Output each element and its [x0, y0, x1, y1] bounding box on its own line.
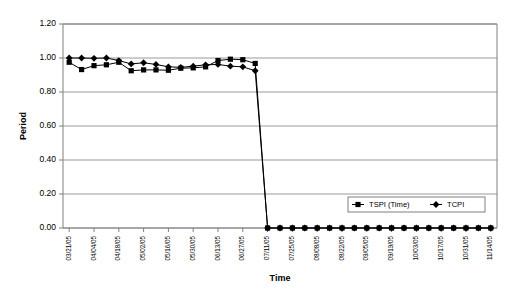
data-point: [91, 63, 96, 68]
x-tick-label: 08/22/05: [338, 236, 345, 261]
chart-container: 0.000.200.400.600.801.001.20 03/21/0504/…: [0, 0, 521, 303]
y-tick-label: 0.60: [39, 120, 56, 130]
x-tick-label: 10/31/05: [462, 236, 469, 261]
data-point: [128, 61, 135, 68]
x-tick-label: 05/30/05: [189, 236, 196, 261]
x-tick-label: 04/18/05: [114, 236, 121, 261]
x-tick-label: 05/02/05: [139, 236, 146, 261]
legend-label: TCPI: [447, 200, 464, 209]
x-tick-label: 06/13/05: [214, 236, 221, 261]
x-tick-label: 11/14/05: [486, 236, 493, 261]
y-tick-label: 0.40: [39, 154, 56, 164]
x-axis-title: Time: [270, 273, 291, 283]
data-point: [228, 57, 233, 62]
y-tick-label: 0.00: [39, 222, 56, 232]
y-axis-title: Period: [18, 112, 28, 140]
x-tick-label: 05/16/05: [164, 236, 171, 261]
legend[interactable]: TSPI (Time)TCPI: [348, 197, 485, 212]
data-point: [240, 57, 245, 62]
x-tick-label: 09/05/05: [362, 236, 369, 261]
x-tick-label: 06/27/05: [238, 236, 245, 261]
data-point: [239, 63, 246, 70]
data-point: [227, 63, 234, 70]
y-tick-label: 0.80: [39, 86, 56, 96]
y-axis-tick-labels: 0.000.200.400.600.801.001.20: [39, 18, 56, 232]
x-tick-label: 08/08/05: [313, 236, 320, 261]
x-axis-tick-labels: 03/21/0504/04/0504/18/0505/02/0505/16/05…: [65, 236, 494, 261]
data-point: [253, 61, 258, 66]
data-point: [153, 67, 158, 72]
x-tick-label: 03/21/05: [65, 236, 72, 261]
y-tick-label: 1.20: [39, 18, 56, 28]
data-point: [141, 67, 146, 72]
data-point: [103, 55, 110, 62]
x-tick-label: 09/19/05: [387, 236, 394, 261]
y-axis-ticks: [59, 24, 63, 228]
x-tick-label: 07/25/05: [288, 236, 295, 261]
data-point: [91, 55, 98, 62]
y-tick-label: 0.20: [39, 188, 56, 198]
line-chart: 0.000.200.400.600.801.001.20 03/21/0504/…: [0, 0, 521, 303]
x-tick-label: 10/03/05: [412, 236, 419, 261]
x-tick-label: 10/17/05: [437, 236, 444, 261]
x-tick-label: 04/04/05: [90, 236, 97, 261]
data-point: [79, 67, 84, 72]
data-point: [104, 62, 109, 67]
data-point: [78, 55, 85, 62]
legend-label: TSPI (Time): [369, 200, 410, 209]
y-tick-label: 1.00: [39, 52, 56, 62]
legend-marker: [355, 202, 360, 207]
x-tick-label: 07/11/05: [263, 236, 270, 261]
data-point: [140, 59, 147, 66]
data-point: [153, 61, 160, 68]
data-point: [129, 68, 134, 73]
data-point: [252, 67, 259, 74]
